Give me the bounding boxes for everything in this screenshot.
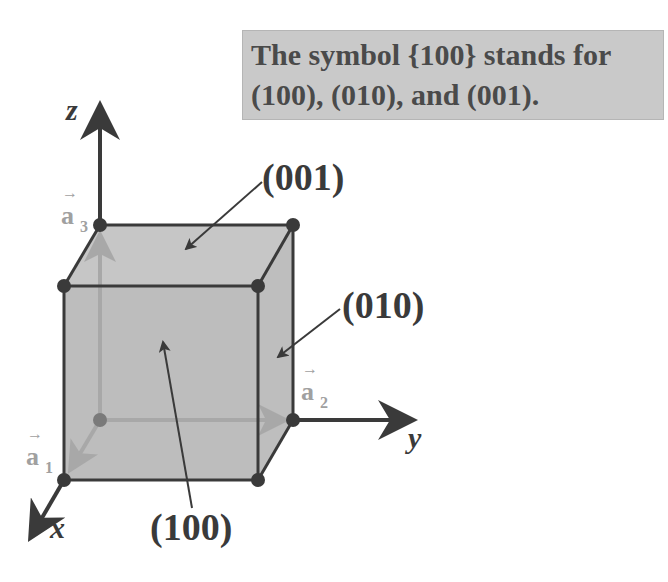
svg-text:→: → [27,425,43,442]
face-100-front [64,286,258,480]
z-axis-label: z [65,93,78,126]
svg-text:1: 1 [45,459,53,476]
vector-a1-label: a 1 → [26,425,53,476]
x-axis-label: x [49,511,65,544]
y-axis-label: y [405,421,422,454]
plane-label-100: (100) [150,506,232,549]
svg-text:a: a [301,377,314,406]
vector-a3-label: a 3 → [61,184,88,235]
cube-diagram: z y x a 3 → a 2 → a 1 → (001) (010) (100… [0,0,668,582]
vector-a2-label: a 2 → [301,360,328,411]
svg-text:2: 2 [320,394,328,411]
svg-text:a: a [61,201,74,230]
svg-text:→: → [62,184,78,201]
plane-label-010: (010) [342,284,424,327]
plane-label-001: (001) [262,156,344,199]
svg-text:3: 3 [80,218,88,235]
svg-text:→: → [302,360,318,377]
svg-text:a: a [26,442,39,471]
origin-dot [93,413,107,427]
